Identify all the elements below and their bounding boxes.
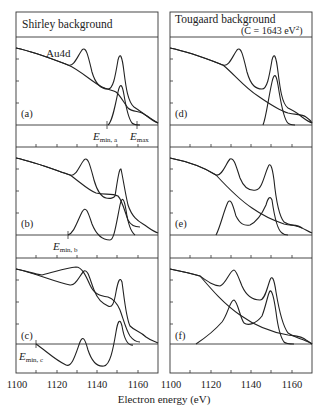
panel-f-tougaard: [170, 269, 312, 344]
right-column-subtitle: (C = 1643 eV2): [241, 24, 303, 37]
left-column-title: Shirley background: [22, 18, 113, 31]
emin-c-label: Emin, c: [18, 350, 43, 364]
panel-label-e: (e): [175, 218, 187, 230]
panel-d-measured: [170, 48, 312, 123]
svg-text:1140: 1140: [87, 379, 108, 390]
panel-label-a: (a): [21, 108, 33, 120]
tick-marks: [16, 59, 292, 373]
svg-text:1120: 1120: [201, 379, 222, 390]
emax-label: Emax: [129, 130, 149, 144]
panel-label-f: (f): [175, 330, 186, 342]
x-tick-labels: 1100 1120 1140 1160 1100 1120 1140 1160: [7, 379, 303, 390]
right-column-frame: [170, 12, 312, 373]
panel-c-shirley: [16, 267, 140, 342]
panel-c-measured: [16, 269, 158, 343]
emin-b-label: Emin, b: [52, 240, 78, 254]
svg-text:1100: 1100: [7, 379, 28, 390]
emin-a-label: Emin, a: [92, 130, 118, 144]
svg-text:1160: 1160: [128, 379, 149, 390]
panel-b-shirley: [16, 158, 140, 227]
panel-f-subtracted: [196, 291, 294, 344]
panel-label-c: (c): [21, 330, 33, 342]
panel-label-b: (b): [21, 218, 34, 230]
svg-text:1100: 1100: [161, 379, 182, 390]
left-column-frame: [16, 12, 158, 373]
x-axis-label: Electron energy (eV): [118, 393, 211, 406]
panel-a-shirley: [16, 48, 158, 123]
figure: Shirley background Tougaard background (…: [0, 0, 325, 409]
panel-e-measured: [170, 158, 312, 233]
panel-f-measured: [170, 269, 312, 344]
svg-text:1140: 1140: [241, 379, 262, 390]
panel-label-d: (d): [175, 108, 188, 120]
panel-d-tougaard: [170, 48, 312, 123]
panel-b-subtracted: [68, 199, 135, 240]
au4d-label: Au4d: [46, 47, 71, 59]
panel-b-measured: [16, 158, 158, 233]
svg-text:1120: 1120: [47, 379, 68, 390]
panel-a-subtracted: [108, 86, 140, 125]
panel-e-tougaard: [170, 158, 302, 228]
svg-text:1160: 1160: [282, 379, 303, 390]
